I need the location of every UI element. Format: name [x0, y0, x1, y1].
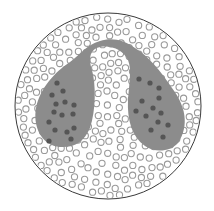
bubble [97, 24, 103, 30]
bubble [154, 53, 160, 59]
bubble [168, 72, 174, 78]
bubble [190, 129, 196, 135]
bubble [22, 92, 28, 98]
bubble [104, 114, 110, 120]
bubble [172, 45, 178, 51]
granule [71, 102, 76, 107]
bubble [116, 120, 122, 126]
bubble [116, 59, 122, 65]
bubble [104, 181, 110, 187]
granule [60, 88, 65, 93]
bubble [90, 136, 96, 142]
bubble [24, 77, 30, 83]
bubble [115, 29, 121, 35]
bubble [123, 29, 129, 35]
bubble [174, 148, 180, 154]
bubble [124, 186, 130, 192]
bubble [100, 64, 106, 70]
bubble [173, 157, 179, 163]
bubble [144, 48, 150, 54]
granule [54, 80, 59, 85]
granule [148, 127, 153, 132]
bubble [112, 185, 118, 191]
granule [64, 129, 69, 134]
bubble [109, 51, 115, 57]
granule [49, 92, 54, 97]
bubble [105, 77, 111, 83]
bubble [106, 69, 112, 75]
bubble [183, 76, 189, 82]
bubble [92, 65, 98, 71]
bubble [53, 42, 59, 48]
bubble [57, 49, 63, 55]
bubble [186, 114, 192, 120]
bubble [116, 19, 122, 25]
bubble [90, 189, 96, 195]
bubble [149, 165, 155, 171]
bubble [99, 160, 105, 166]
bubble [78, 184, 84, 190]
bubble [82, 17, 88, 23]
bubble [50, 54, 56, 60]
bubble [146, 155, 152, 161]
bubble [31, 67, 37, 73]
granule [51, 109, 56, 114]
granule [150, 105, 155, 110]
bubble [184, 138, 190, 144]
bubble [84, 40, 90, 46]
bubble [93, 169, 99, 175]
bubble [25, 140, 31, 146]
bubble [92, 128, 98, 134]
bubble [115, 68, 121, 74]
bubble [104, 102, 110, 108]
bubble [166, 151, 172, 157]
bubble [71, 174, 77, 180]
bubble [82, 142, 88, 148]
bubble [193, 117, 199, 123]
bubble [152, 34, 158, 40]
bubble [106, 138, 112, 144]
bubble [136, 43, 142, 49]
bubble [42, 74, 48, 80]
bubble [130, 37, 136, 43]
bubble [122, 177, 128, 183]
granule [68, 136, 73, 141]
diagram-canvas [0, 0, 214, 211]
bubble [164, 161, 170, 167]
bubble [176, 84, 182, 90]
granule [158, 110, 163, 115]
bubble [75, 40, 81, 46]
bubble [157, 152, 163, 158]
bubble [29, 99, 35, 105]
bubble [73, 32, 79, 38]
bubble [82, 176, 88, 182]
bubble [148, 173, 154, 179]
bubble [108, 60, 114, 66]
bubble [73, 150, 79, 156]
granule [156, 85, 161, 90]
bubble [130, 142, 136, 148]
bubble [176, 54, 182, 60]
bubble [66, 49, 72, 55]
bubble [49, 68, 55, 74]
granule [160, 134, 165, 139]
cell-diagram [0, 0, 214, 211]
bubble [44, 49, 50, 55]
bubble [30, 146, 36, 152]
bubble [107, 192, 113, 198]
bubble [144, 180, 150, 186]
granule [46, 119, 51, 124]
bubble [113, 162, 119, 168]
bubble [36, 138, 42, 144]
bubble [78, 25, 84, 31]
bubble [108, 127, 114, 133]
granule [155, 119, 160, 124]
bubble [69, 166, 75, 172]
bubble [157, 164, 163, 170]
bubble [101, 52, 107, 58]
bubble [139, 166, 145, 172]
bubble [32, 154, 38, 160]
granule [139, 98, 144, 103]
bubble [107, 33, 113, 39]
bubble [105, 150, 111, 156]
